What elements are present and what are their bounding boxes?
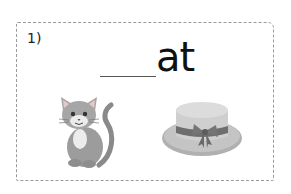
word-ending: at bbox=[156, 36, 194, 78]
cat-icon bbox=[55, 95, 117, 170]
item-number: 1) bbox=[27, 30, 41, 46]
hat-icon bbox=[160, 100, 245, 160]
answer-blank[interactable] bbox=[100, 76, 156, 77]
